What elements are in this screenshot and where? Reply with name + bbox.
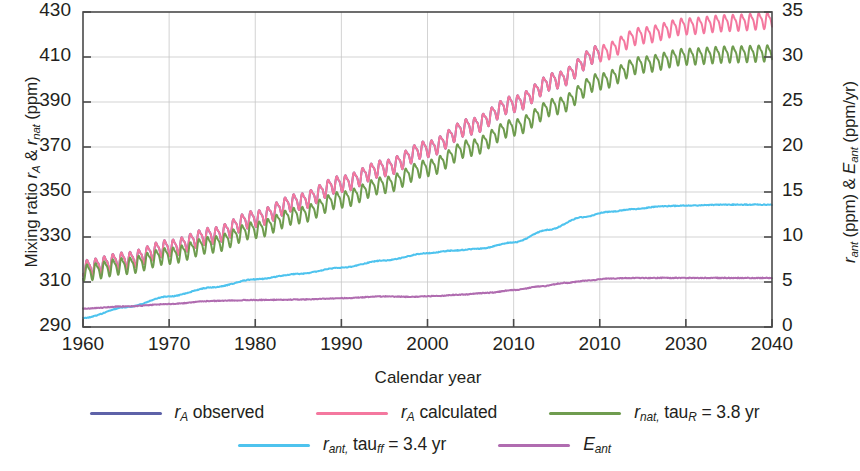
legend-label-rnat-tau-r: rnat, tauR = 3.8 yr	[634, 402, 759, 424]
y-right-title-r1: r	[840, 257, 859, 262]
x-axis-title: Calendar year	[83, 368, 773, 388]
x-tick-label: 2030	[636, 333, 736, 355]
x-tick-label: 1970	[119, 333, 219, 355]
x-tick-label: 2040	[722, 333, 822, 355]
legend-swatch-ra-observed	[90, 412, 162, 415]
y-tick-label-left: 390	[0, 89, 71, 111]
legend-swatch-rnat-tau-r	[549, 412, 621, 415]
y-right-title-sub1: ant	[848, 242, 860, 257]
legend-entry-eant[interactable]: Eant	[498, 434, 611, 456]
legend-swatch-eant	[498, 444, 570, 447]
y-right-title-post: (ppm/yr)	[840, 81, 859, 147]
y-left-title-r1: r	[22, 173, 41, 178]
legend-row-top: rA observedrA calculatedrnat, tauR = 3.8…	[0, 398, 849, 428]
y-tick-label-right: 15	[782, 179, 842, 201]
legend-swatch-rant-tau-ff	[238, 444, 310, 447]
x-tick-label: 1980	[205, 333, 305, 355]
legend-label-ra-calculated: rA calculated	[401, 402, 497, 424]
legend-swatch-ra-calculated	[316, 412, 388, 415]
y-right-title-sub2: ant	[848, 147, 860, 162]
legend-entry-ra-observed[interactable]: rA observed	[90, 402, 265, 424]
x-tick-label: 2000	[378, 333, 478, 355]
y-tick-label-left: 350	[0, 179, 71, 201]
y-axis-right-title: rant (ppm) & Eant (ppm/yr)	[840, 22, 860, 322]
x-tick-label: 1990	[291, 333, 391, 355]
x-tick-label: 2010	[464, 333, 564, 355]
y-tick-label-right: 25	[782, 89, 842, 111]
y-tick-label-left: 330	[0, 224, 71, 246]
y-tick-label-right: 5	[782, 269, 842, 291]
y-tick-label-right: 20	[782, 134, 842, 156]
x-tick-label: 2010	[550, 333, 650, 355]
legend-row-bottom: rant, tauff = 3.4 yrEant	[0, 430, 849, 460]
x-tick-label: 1960	[33, 333, 133, 355]
y-left-title-sub1: A	[30, 166, 42, 174]
legend-entry-rant-tau-ff[interactable]: rant, tauff = 3.4 yr	[238, 434, 446, 456]
y-tick-label-right: 35	[782, 0, 842, 21]
legend-label-ra-observed: rA observed	[175, 402, 265, 424]
y-tick-label-left: 430	[0, 0, 71, 21]
y-tick-label-right: 30	[782, 44, 842, 66]
chart-legend: rA observedrA calculatedrnat, tauR = 3.8…	[0, 396, 849, 471]
legend-entry-rnat-tau-r[interactable]: rnat, tauR = 3.8 yr	[549, 402, 759, 424]
legend-entry-ra-calculated[interactable]: rA calculated	[316, 402, 497, 424]
legend-label-rant-tau-ff: rant, tauff = 3.4 yr	[323, 434, 446, 456]
y-right-title-e1: E	[840, 163, 859, 174]
y-tick-label-left: 370	[0, 134, 71, 156]
y-right-title-mid: (ppm) &	[840, 174, 859, 242]
y-tick-label-right: 10	[782, 224, 842, 246]
legend-label-eant: Eant	[583, 434, 611, 456]
y-tick-label-left: 310	[0, 269, 71, 291]
y-tick-label-left: 410	[0, 44, 71, 66]
